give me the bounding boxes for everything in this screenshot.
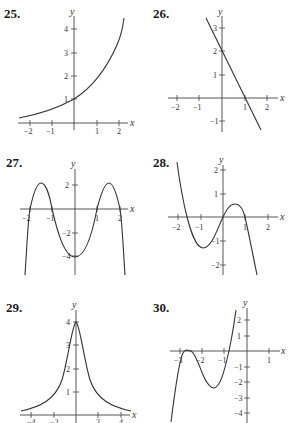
svg-text:1: 1 bbox=[66, 388, 70, 397]
chart-25-plot: −2−112 1234 yx bbox=[0, 0, 148, 135]
svg-text:x: x bbox=[279, 92, 285, 103]
svg-text:1: 1 bbox=[237, 332, 241, 341]
svg-text:−2: −2 bbox=[171, 103, 180, 112]
svg-text:y: y bbox=[71, 299, 77, 310]
svg-text:x: x bbox=[129, 117, 135, 128]
chart-29-plot: −4−224 1234 yx bbox=[0, 280, 148, 423]
svg-text:−2: −2 bbox=[50, 418, 59, 423]
svg-text:2: 2 bbox=[64, 72, 68, 81]
chart-25: 25. −2−112 1234 yx bbox=[0, 0, 148, 135]
svg-text:x: x bbox=[131, 409, 137, 420]
svg-text:−1: −1 bbox=[218, 356, 227, 365]
svg-text:2: 2 bbox=[214, 166, 218, 175]
svg-text:−4: −4 bbox=[27, 418, 36, 423]
svg-text:y: y bbox=[217, 6, 223, 17]
svg-text:−2: −2 bbox=[211, 261, 220, 270]
svg-text:−3: −3 bbox=[234, 394, 243, 403]
chart-29: 29. −4−224 1234 yx bbox=[0, 280, 148, 423]
svg-text:y: y bbox=[69, 6, 75, 17]
chart-28-plot: −2−112 21−1−2 yx bbox=[150, 135, 295, 275]
chart-30: 30. −3−2−11 21 −1−2−3−4 yx bbox=[150, 280, 295, 423]
svg-text:y: y bbox=[218, 154, 224, 165]
svg-text:1: 1 bbox=[213, 71, 217, 80]
chart-27-plot: −2−112 2−2−4 yx bbox=[0, 135, 148, 275]
svg-text:2: 2 bbox=[213, 47, 217, 56]
svg-text:2: 2 bbox=[66, 365, 70, 374]
svg-text:2: 2 bbox=[266, 223, 270, 232]
chart-26: 26. −2−112 −1123 yx bbox=[150, 0, 295, 135]
svg-text:1: 1 bbox=[267, 356, 271, 365]
svg-text:2: 2 bbox=[65, 181, 69, 190]
chart-28: 28. −2−112 21−1−2 yx bbox=[150, 135, 295, 275]
svg-text:−1: −1 bbox=[234, 363, 243, 372]
svg-text:x: x bbox=[279, 211, 285, 222]
svg-text:4: 4 bbox=[64, 25, 68, 34]
svg-text:1: 1 bbox=[243, 103, 247, 112]
svg-text:−1: −1 bbox=[195, 223, 204, 232]
svg-text:y: y bbox=[242, 297, 248, 308]
svg-text:2: 2 bbox=[265, 103, 269, 112]
svg-text:−4: −4 bbox=[234, 409, 243, 418]
svg-text:y: y bbox=[70, 158, 76, 169]
svg-text:4: 4 bbox=[66, 318, 70, 327]
svg-text:−2: −2 bbox=[62, 229, 71, 238]
svg-text:x: x bbox=[129, 203, 135, 214]
svg-text:−2: −2 bbox=[172, 223, 181, 232]
svg-text:−1: −1 bbox=[193, 103, 202, 112]
svg-text:2: 2 bbox=[96, 418, 100, 423]
svg-text:4: 4 bbox=[119, 418, 123, 423]
svg-text:3: 3 bbox=[213, 24, 217, 33]
chart-27: 27. −2−112 2−2−4 yx bbox=[0, 135, 148, 275]
chart-26-plot: −2−112 −1123 yx bbox=[150, 0, 295, 135]
svg-text:−4: −4 bbox=[62, 252, 71, 261]
chart-30-plot: −3−2−11 21 −1−2−3−4 yx bbox=[150, 280, 295, 423]
svg-text:x: x bbox=[280, 345, 286, 356]
svg-text:−1: −1 bbox=[211, 237, 220, 246]
svg-text:1: 1 bbox=[214, 190, 218, 199]
svg-text:−2: −2 bbox=[234, 378, 243, 387]
svg-text:3: 3 bbox=[64, 49, 68, 58]
svg-text:−1: −1 bbox=[210, 117, 219, 126]
svg-text:2: 2 bbox=[237, 316, 241, 325]
